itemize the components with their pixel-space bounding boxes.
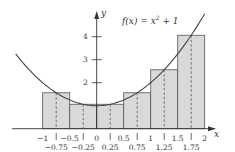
svg-text:0: 0 [94,134,99,143]
svg-text:−0.5: −0.5 [61,134,79,143]
svg-text:0.75: 0.75 [129,143,146,152]
svg-text:2: 2 [83,78,88,87]
x-ticks: −1−0.500.511.52 [37,134,207,143]
svg-text:−1: −1 [37,134,48,143]
y-arrow-icon [94,11,99,19]
svg-text:4: 4 [83,32,88,41]
bar [97,104,124,128]
midpoint-rectangles [43,35,205,128]
svg-text:0.25: 0.25 [102,143,119,152]
svg-text:1: 1 [148,134,153,143]
svg-text:−0.25: −0.25 [72,143,95,152]
x-axis-label: x [214,129,219,139]
bar [70,104,97,128]
svg-text:1.75: 1.75 [183,143,200,152]
svg-text:2: 2 [202,134,207,143]
svg-text:0.5: 0.5 [118,134,130,143]
svg-text:1.25: 1.25 [156,143,173,152]
chart: −1−0.500.511.52 −0.75−0.250.250.751.251.… [0,0,235,152]
svg-text:3: 3 [83,55,88,64]
y-axis-label: y [100,8,107,18]
equation-label: f(x) = x2 + 1 [121,14,179,26]
svg-text:−0.75: −0.75 [45,143,68,152]
svg-text:1.5: 1.5 [172,134,184,143]
y-ticks: 234 [83,32,102,87]
